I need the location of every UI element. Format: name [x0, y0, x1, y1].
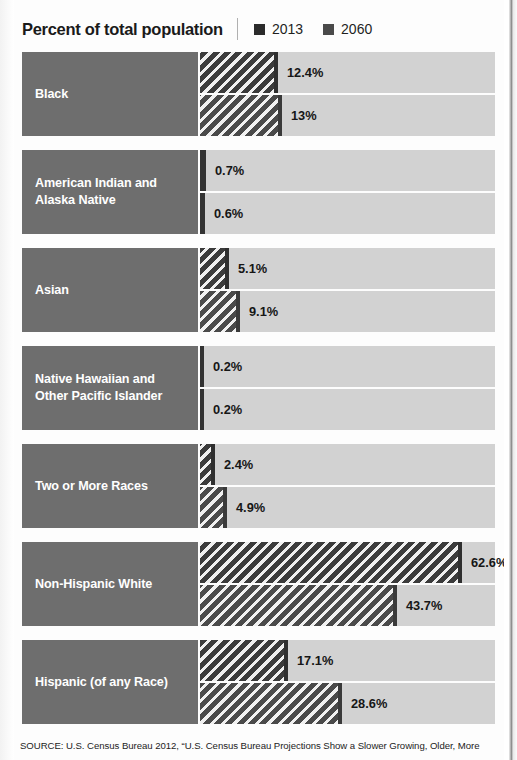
bar-value-label: 62.6%: [471, 542, 507, 583]
category-label: Black: [35, 86, 68, 103]
bar-2060: [200, 683, 342, 724]
category-label-line: American Indian and: [35, 175, 157, 192]
legend-item-2013: 2013: [254, 21, 303, 37]
legend-item-2060: 2060: [323, 21, 372, 37]
bar-value-label: 2.4%: [224, 444, 253, 485]
bar-value-label: 5.1%: [238, 248, 267, 289]
bar-row: 4.9%: [200, 487, 495, 528]
legend-label: 2060: [341, 21, 372, 37]
bar-group: Non-Hispanic White62.6%43.7%: [22, 542, 495, 626]
category-label-line: Alaska Native: [35, 192, 157, 209]
bar-value-label: 0.6%: [214, 193, 243, 234]
category-label-block: Hispanic (of any Race): [22, 640, 198, 724]
bar-row: 9.1%: [200, 291, 495, 332]
bar-value-label: 0.2%: [213, 389, 242, 430]
bar-2013: [200, 444, 215, 485]
bar-value-label: 28.6%: [351, 683, 387, 724]
bar-group: American Indian andAlaska Native0.7%0.6%: [22, 150, 495, 234]
category-label-block: Non-Hispanic White: [22, 542, 198, 626]
bar-row: 5.1%: [200, 248, 495, 289]
bar-row: 13%: [200, 95, 495, 136]
bar-group: Two or More Races2.4%4.9%: [22, 444, 495, 528]
category-label: Native Hawaiian andOther Pacific Islande…: [35, 371, 162, 405]
bar-group: Black12.4%13%: [22, 52, 495, 136]
bar-value-label: 0.2%: [213, 346, 242, 387]
category-label-line: Native Hawaiian and: [35, 371, 162, 388]
bar-rows: 2.4%4.9%: [200, 444, 495, 528]
category-label-block: American Indian andAlaska Native: [22, 150, 198, 234]
category-label-line: Other Pacific Islander: [35, 388, 162, 405]
bar-2013: [200, 150, 206, 191]
bar-2013: [200, 542, 462, 583]
bar-rows: 62.6%43.7%: [200, 542, 495, 626]
bar-rows: 5.1%9.1%: [200, 248, 495, 332]
bar-group: Hispanic (of any Race)17.1%28.6%: [22, 640, 495, 724]
bar-rows: 0.2%0.2%: [200, 346, 495, 430]
bar-2013: [200, 346, 204, 387]
bar-2060: [200, 585, 397, 626]
bar-2060: [200, 389, 204, 430]
legend-swatch-icon: [323, 24, 334, 35]
bar-value-label: 0.7%: [215, 150, 244, 191]
bar-row: 0.2%: [200, 346, 495, 387]
legend-swatch-icon: [254, 24, 265, 35]
legend-divider: [237, 18, 238, 40]
infographic-page: Percent of total population 20132060 Bla…: [0, 0, 517, 760]
bar-rows: 0.7%0.6%: [200, 150, 495, 234]
bar-rows: 17.1%28.6%: [200, 640, 495, 724]
category-label-block: Two or More Races: [22, 444, 198, 528]
bar-group: Native Hawaiian andOther Pacific Islande…: [22, 346, 495, 430]
bar-row: 17.1%: [200, 640, 495, 681]
bar-2060: [200, 95, 282, 136]
bar-row: 2.4%: [200, 444, 495, 485]
bar-2060: [200, 291, 240, 332]
category-label-block: Asian: [22, 248, 198, 332]
legend-label: 2013: [272, 21, 303, 37]
category-label: Non-Hispanic White: [35, 576, 152, 593]
bar-row: 28.6%: [200, 683, 495, 724]
legend: 20132060: [254, 21, 392, 37]
bar-group: Asian5.1%9.1%: [22, 248, 495, 332]
chart-header: Percent of total population 20132060: [22, 14, 482, 44]
bar-rows: 12.4%13%: [200, 52, 495, 136]
bar-row: 0.6%: [200, 193, 495, 234]
bar-row: 62.6%: [200, 542, 495, 583]
category-label: Hispanic (of any Race): [35, 674, 168, 691]
bar-row: 0.2%: [200, 389, 495, 430]
scan-edge-right: [504, 0, 517, 760]
bar-value-label: 4.9%: [236, 487, 265, 528]
bar-value-label: 17.1%: [297, 640, 333, 681]
category-label-block: Black: [22, 52, 198, 136]
bar-value-label: 9.1%: [249, 291, 278, 332]
bar-2060: [200, 487, 227, 528]
bar-2013: [200, 640, 288, 681]
bar-row: 43.7%: [200, 585, 495, 626]
bar-value-label: 43.7%: [406, 585, 442, 626]
bar-2013: [200, 52, 278, 93]
bar-row: 0.7%: [200, 150, 495, 191]
bar-chart: Black12.4%13%American Indian andAlaska N…: [22, 52, 495, 738]
bar-value-label: 13%: [291, 95, 317, 136]
category-label: Two or More Races: [35, 478, 148, 495]
category-label-block: Native Hawaiian andOther Pacific Islande…: [22, 346, 198, 430]
bar-2013: [200, 248, 229, 289]
category-label: American Indian andAlaska Native: [35, 175, 157, 209]
category-label: Asian: [35, 282, 69, 299]
page-title: Percent of total population: [22, 20, 223, 39]
bar-row: 12.4%: [200, 52, 495, 93]
scan-edge-left: [0, 0, 14, 760]
source-note: SOURCE: U.S. Census Bureau 2012, “U.S. C…: [20, 739, 500, 752]
bar-2060: [200, 193, 205, 234]
bar-value-label: 12.4%: [287, 52, 323, 93]
